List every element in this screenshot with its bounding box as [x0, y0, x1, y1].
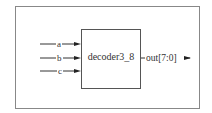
- input-label-a: a: [56, 39, 62, 49]
- arrow-icon: [184, 56, 191, 60]
- decoder-module-block: decoder3_8: [81, 29, 141, 89]
- arrow-icon: [74, 69, 81, 73]
- arrow-icon: [74, 42, 81, 46]
- arrow-icon: [74, 56, 81, 60]
- input-label-c: c: [57, 66, 63, 76]
- output-label: out[7:0]: [145, 53, 178, 63]
- module-name: decoder3_8: [82, 51, 140, 62]
- input-label-b: b: [56, 53, 63, 63]
